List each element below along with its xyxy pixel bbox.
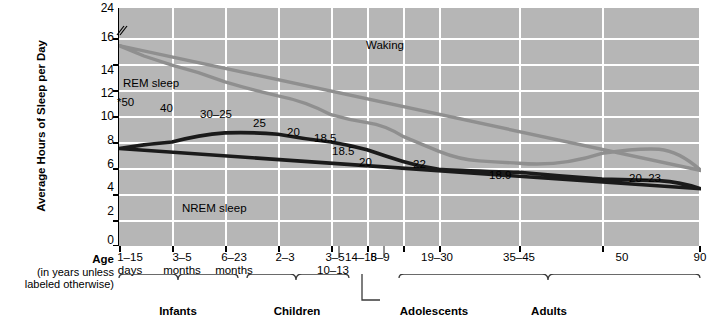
group-label-children: Children <box>274 305 321 317</box>
x-label-11: 90 <box>694 251 707 264</box>
data-label-rem-10: 20–23 <box>629 172 661 184</box>
x-label-10: 50 <box>616 251 629 264</box>
bracket-adolescents <box>362 274 380 300</box>
label-nrem-sleep: NREM sleep <box>182 202 247 214</box>
data-label-rem-0: *50 <box>117 96 134 108</box>
y-tick-16: 16 <box>88 31 114 43</box>
age-group-brackets <box>0 274 709 318</box>
y-tick-8: 8 <box>88 134 114 146</box>
group-label-infants: Infants <box>159 305 197 317</box>
group-label-adolescents: Adolescents <box>400 305 468 317</box>
data-label-rem-1: 40 <box>160 102 173 114</box>
y-tick-2: 2 <box>88 205 114 217</box>
y-tick-4: 4 <box>88 181 114 193</box>
bracket-infants <box>119 274 238 280</box>
x-label-1: 3–5 months <box>163 251 201 276</box>
y-tick-14: 14 <box>88 64 114 76</box>
data-label-rem-3: 25 <box>253 117 266 129</box>
bracket-children <box>247 274 349 280</box>
data-label-rem-4: 20 <box>287 126 300 138</box>
y-tick-10: 10 <box>88 110 114 122</box>
x-tick-mark-9 <box>602 246 604 252</box>
y-tick-12: 12 <box>88 87 114 99</box>
y-axis-tick-labels: 24 16 14 12 10 8 6 4 2 0 <box>88 0 114 250</box>
x-label-9: 35–45 <box>503 251 535 264</box>
y-tick-6: 6 <box>88 158 114 170</box>
x-label-3: 2–3 <box>275 251 294 264</box>
bracket-14-18-group <box>336 246 396 258</box>
group-label-adults: Adults <box>531 305 567 317</box>
x-label-8: 19–30 <box>421 251 453 264</box>
data-label-rem-2: 30–25 <box>200 108 232 120</box>
plot-area: Waking REM sleep NREM sleep *50 40 30–25… <box>118 8 701 246</box>
x-label-2: 6–23 months <box>215 251 253 276</box>
label-rem-sleep: REM sleep <box>123 77 179 89</box>
x-axis-title: Age <box>92 253 114 265</box>
data-label-rem-5: 18.5 <box>314 132 336 144</box>
y-tick-24: 24 <box>88 2 114 14</box>
data-label-rem-8: 22 <box>413 158 426 170</box>
data-label-rem-6: 18.5 <box>332 145 354 157</box>
bracket-adults <box>399 274 700 280</box>
y-axis-title: Average Hours of Sleep per Day <box>35 11 47 241</box>
x-tick-mark-6 <box>403 246 405 252</box>
x-label-2-line1: 6–23 <box>215 251 253 264</box>
x-label-0-line1: 1–15 <box>117 251 143 264</box>
sleep-chart-figure: Average Hours of Sleep per Day 24 16 14 … <box>0 0 709 324</box>
data-label-rem-7: 20 <box>359 156 372 168</box>
x-label-0: 1–15 days <box>117 251 143 276</box>
data-label-rem-9: 18.9 <box>489 169 511 181</box>
x-label-1-line1: 3–5 <box>163 251 201 264</box>
label-waking: Waking <box>366 39 404 51</box>
y-tick-0: 0 <box>88 234 114 246</box>
